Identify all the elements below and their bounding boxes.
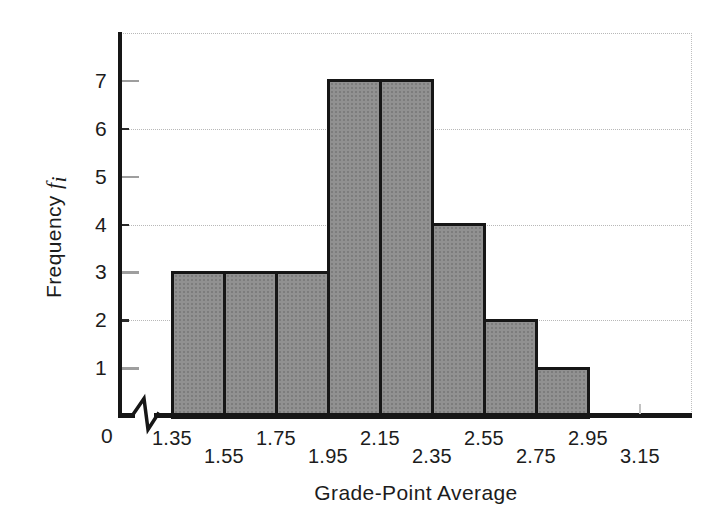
y-tick-label-4: 4 bbox=[73, 213, 107, 237]
x-tick-label-2.75: 2.75 bbox=[506, 445, 566, 468]
x-tick-label-1.95: 1.95 bbox=[298, 445, 358, 468]
y-tick-7 bbox=[122, 80, 139, 83]
y-tick-label-3: 3 bbox=[73, 260, 107, 284]
gridline-y-8 bbox=[120, 33, 692, 34]
x-tick-label-1.35: 1.35 bbox=[142, 427, 202, 450]
y-tick-label-2: 2 bbox=[73, 308, 107, 332]
histogram-bar-2.55-2.75 bbox=[483, 319, 538, 419]
histogram-figure: 1234567 1.351.551.751.952.152.352.552.75… bbox=[0, 0, 722, 531]
histogram-bar-1.55-1.75 bbox=[223, 271, 278, 419]
histogram-bar-2.75-2.95 bbox=[535, 367, 590, 419]
y-tick-5 bbox=[122, 176, 139, 179]
histogram-bar-2.35-2.55 bbox=[431, 223, 486, 419]
x-axis-line bbox=[154, 413, 692, 418]
x-tick-label-2.35: 2.35 bbox=[402, 445, 462, 468]
x-tick-label-2.55: 2.55 bbox=[454, 427, 514, 450]
histogram-bar-1.95-2.15 bbox=[327, 79, 382, 418]
y-tick-6 bbox=[122, 128, 129, 131]
y-axis-title-subscript: i bbox=[47, 176, 72, 183]
y-axis-title: Frequency fi bbox=[41, 176, 72, 298]
x-tick-label-2.95: 2.95 bbox=[558, 427, 618, 450]
x-axis-line-origin-segment bbox=[118, 413, 135, 418]
x-tick-label-1.75: 1.75 bbox=[246, 427, 306, 450]
histogram-bar-2.15-2.35 bbox=[379, 79, 434, 418]
y-tick-4 bbox=[122, 224, 129, 227]
x-axis-title: Grade-Point Average bbox=[286, 481, 546, 505]
origin-zero-label: 0 bbox=[92, 424, 122, 448]
y-axis-title-variable: f bbox=[41, 182, 66, 189]
y-tick-1 bbox=[122, 367, 139, 370]
y-tick-3 bbox=[122, 271, 139, 274]
histogram-bar-1.35-1.55 bbox=[171, 271, 226, 419]
y-tick-label-7: 7 bbox=[73, 69, 107, 93]
x-tick-label-2.15: 2.15 bbox=[350, 427, 410, 450]
y-tick-label-6: 6 bbox=[73, 117, 107, 141]
plot-frame-right-border bbox=[691, 33, 692, 416]
y-axis-title-word: Frequency bbox=[42, 195, 65, 298]
y-tick-label-1: 1 bbox=[73, 356, 107, 380]
x-tick-label-1.55: 1.55 bbox=[194, 445, 254, 468]
y-tick-label-5: 5 bbox=[73, 165, 107, 189]
y-tick-2 bbox=[122, 319, 129, 322]
x-tick-label-3.15: 3.15 bbox=[610, 445, 670, 468]
x-tick-3-15 bbox=[639, 404, 641, 414]
histogram-bar-1.75-1.95 bbox=[275, 271, 330, 419]
